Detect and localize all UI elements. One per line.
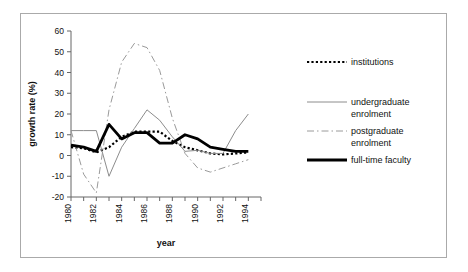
y-tick-label: 10	[55, 130, 65, 140]
x-tick-label: 1986	[139, 204, 149, 223]
y-tick-label: 30	[55, 88, 65, 98]
y-tick-label: 60	[55, 26, 65, 36]
legend-label-line2: enrolment	[351, 109, 392, 119]
y-axis-ticks	[67, 31, 71, 197]
chart-legend: institutionsundergraduateenrolmentpostgr…	[307, 57, 412, 165]
y-tick-label: 40	[55, 68, 65, 78]
legend-label: postgraduate	[351, 126, 404, 136]
growth-rate-line-chart: 6050403020100-10-20 19801982198419861988…	[21, 14, 446, 257]
x-tick-label: 1990	[190, 204, 200, 223]
x-tick-label: 1994	[240, 204, 250, 223]
legend-label-line2: enrolment	[351, 138, 392, 148]
series-line	[71, 124, 248, 151]
y-tick-label: -20	[52, 192, 65, 202]
x-tick-label: 1980	[63, 204, 73, 223]
figure-frame: 6050403020100-10-20 19801982198419861988…	[20, 13, 447, 258]
y-tick-label: 20	[55, 109, 65, 119]
y-axis-tick-labels: 6050403020100-10-20	[52, 26, 65, 202]
x-tick-label: 1988	[164, 204, 174, 223]
legend-label: institutions	[351, 57, 394, 67]
x-tick-label: 1982	[88, 204, 98, 223]
legend-label: full-time faculty	[351, 155, 412, 165]
legend-label: undergraduate	[351, 97, 410, 107]
x-axis-tick-labels: 19801982198419861988199019921994	[63, 204, 250, 223]
y-axis-title: growth rate (%)	[27, 81, 37, 147]
y-tick-label: 0	[59, 151, 64, 161]
x-tick-label: 1992	[215, 204, 225, 223]
data-series-group	[71, 43, 248, 192]
series-line	[71, 43, 248, 192]
x-axis-title: year	[157, 238, 176, 248]
x-tick-label: 1984	[114, 204, 124, 223]
y-tick-label: 50	[55, 47, 65, 57]
x-axis-ticks	[71, 197, 261, 201]
y-tick-label: -10	[52, 171, 65, 181]
